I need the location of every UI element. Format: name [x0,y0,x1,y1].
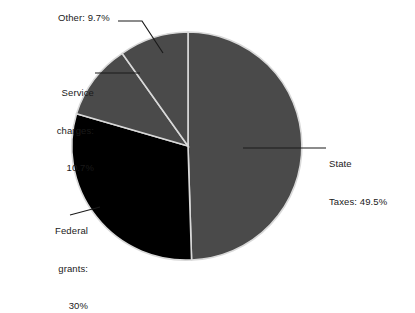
slice-label-service-charges-line1: Service [8,87,94,100]
slice-label-service-charges-line2: charges: [8,125,94,138]
slice-label-other-text: Other: 9.7% [58,12,110,23]
slice-label-service-charges-line3: 10.7% [8,162,94,175]
slice-label-state-taxes: State Taxes: 49.5% [329,133,387,233]
slice-label-service-charges: Service charges: 10.7% [8,62,94,200]
slice-label-federal-grants-line2: grants: [2,263,88,276]
pie-slice-state-taxes[interactable] [188,32,302,260]
slice-label-federal-grants: Federal grants: 30% [2,200,88,313]
slice-label-state-taxes-line2: Taxes: 49.5% [329,196,387,209]
slice-label-other: Other: 9.7% [58,12,110,25]
slice-label-federal-grants-line1: Federal [2,225,88,238]
slice-label-state-taxes-line1: State [329,158,387,171]
slice-label-federal-grants-line3: 30% [2,300,88,313]
